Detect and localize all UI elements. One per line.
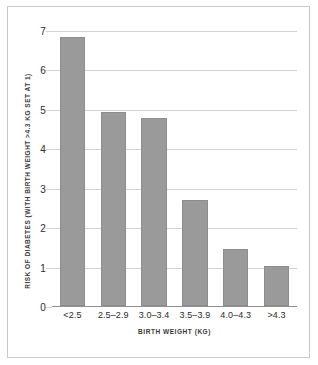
y-axis-title: RISK OF DIABETES (WITH BIRTH WEIGHT >4.3… bbox=[22, 43, 34, 319]
bar-slot bbox=[93, 31, 134, 306]
bar bbox=[223, 249, 248, 306]
y-axis-tick-mark bbox=[46, 31, 52, 32]
y-axis-tick-mark bbox=[46, 307, 52, 308]
y-axis-tick-mark bbox=[46, 149, 52, 150]
x-axis-tick-label: 4.0–4.3 bbox=[215, 310, 256, 320]
bar-slot bbox=[256, 31, 297, 306]
y-axis-tick-mark bbox=[46, 189, 52, 190]
bar bbox=[60, 37, 85, 306]
bar bbox=[101, 112, 126, 306]
x-axis-tick-label: 3.0–3.4 bbox=[134, 310, 175, 320]
bar bbox=[264, 266, 289, 306]
bar-slot bbox=[134, 31, 175, 306]
y-axis-tick-mark bbox=[46, 110, 52, 111]
y-axis-tick-mark bbox=[46, 70, 52, 71]
x-axis-tick-label: >4.3 bbox=[256, 310, 297, 320]
y-axis-tick-mark bbox=[46, 268, 52, 269]
x-axis-tick-labels: <2.52.5–2.93.0–3.43.5–3.94.0–4.3>4.3 bbox=[52, 310, 297, 320]
x-axis-tick-label: <2.5 bbox=[52, 310, 93, 320]
x-axis-tick-label: 3.5–3.9 bbox=[174, 310, 215, 320]
plot-area bbox=[52, 31, 297, 307]
y-axis-tick-mark bbox=[46, 228, 52, 229]
bar-slot bbox=[215, 31, 256, 306]
bar-series bbox=[52, 31, 297, 306]
chart-frame: 76543210 <2.52.5–2.93.0–3.43.5–3.94.0–4.… bbox=[7, 6, 310, 358]
bar-slot bbox=[52, 31, 93, 306]
bar bbox=[182, 200, 207, 306]
x-axis-tick-label: 2.5–2.9 bbox=[93, 310, 134, 320]
bar bbox=[141, 118, 166, 306]
y-axis-tick-label: 7 bbox=[16, 26, 46, 37]
bar-slot bbox=[174, 31, 215, 306]
figure: 76543210 <2.52.5–2.93.0–3.43.5–3.94.0–4.… bbox=[0, 0, 318, 365]
x-axis-line bbox=[52, 306, 297, 307]
x-axis-title: BIRTH WEIGHT (KG) bbox=[52, 328, 297, 335]
